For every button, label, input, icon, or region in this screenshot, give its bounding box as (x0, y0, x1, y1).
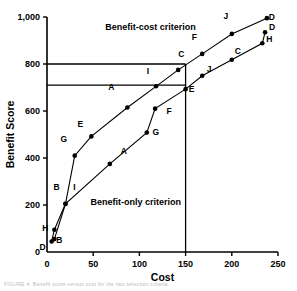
x-tick-label-50: 50 (88, 259, 98, 269)
figure-caption-fragment: FIGURE 4. Benefit score versus cost for … (4, 281, 204, 289)
data-point-benefit-only-F-4 (153, 106, 158, 111)
data-point-benefit-cost-F-8 (200, 52, 205, 57)
data-point-benefit-cost-A-5 (125, 105, 130, 110)
point-label-benefit-only-A-2: A (121, 146, 127, 156)
y-tick-label-400: 400 (25, 153, 40, 163)
point-label-benefit-only-I-1: I (73, 182, 75, 192)
data-point-benefit-only-J-6 (200, 73, 205, 78)
point-label-benefit-only-J-6: J (207, 64, 212, 74)
point-label-benefit-cost-J-9: J (223, 11, 228, 21)
point-label-benefit-cost-H-1: H (42, 223, 48, 233)
x-tick-label-100: 100 (132, 259, 147, 269)
data-point-benefit-only-G-3 (144, 130, 149, 135)
data-point-benefit-only-D-9 (263, 30, 268, 35)
data-point-benefit-cost-H-1 (52, 227, 57, 232)
data-point-benefit-cost-J-9 (230, 32, 235, 37)
x-tick-label-150: 150 (178, 259, 193, 269)
data-point-benefit-only-C-7 (230, 57, 235, 62)
point-label-benefit-cost-B-2: B (53, 182, 59, 192)
point-label-benefit-only-C-7: C (235, 46, 241, 56)
point-label-benefit-cost-D-0: D (40, 242, 46, 252)
data-point-benefit-only-E-5 (183, 87, 188, 92)
point-label-benefit-only-G-3: G (152, 127, 159, 137)
x-tick-label-200: 200 (224, 259, 239, 269)
y-tick-label-600: 600 (25, 106, 40, 116)
data-point-benefit-cost-I-6 (154, 84, 159, 89)
series-line-benefit-only (54, 32, 265, 239)
y-axis-title: Benefit Score (4, 100, 16, 168)
point-label-benefit-cost-D-10: D (269, 12, 275, 22)
data-point-benefit-cost-E-4 (89, 134, 94, 139)
data-point-benefit-cost-C-7 (176, 68, 181, 73)
point-label-benefit-only-F-4: F (167, 106, 172, 116)
benefit-cost-chart: 02004006008001,000050100150200250CostBen… (0, 0, 297, 291)
point-label-benefit-cost-A-5: A (108, 82, 114, 92)
y-tick-label-200: 200 (25, 200, 40, 210)
data-point-benefit-cost-G-3 (72, 153, 77, 158)
data-point-benefit-only-I-1 (63, 202, 68, 207)
point-label-benefit-only-E-5: E (189, 84, 195, 94)
y-tick-label-1,000: 1,000 (17, 12, 40, 22)
point-label-benefit-only-D-9: D (269, 22, 275, 32)
point-label-benefit-only-H-8: H (266, 34, 272, 44)
point-label-benefit-cost-G-3: G (60, 134, 67, 144)
y-tick-label-800: 800 (25, 59, 40, 69)
point-label-benefit-only-B-0: B (56, 235, 62, 245)
figure-container: 02004006008001,000050100150200250CostBen… (0, 0, 297, 291)
point-label-benefit-cost-I-6: I (147, 66, 149, 76)
point-label-benefit-cost-F-8: F (192, 32, 197, 42)
x-tick-label-0: 0 (44, 259, 49, 269)
x-tick-label-250: 250 (270, 259, 285, 269)
data-point-benefit-only-H-8 (260, 41, 265, 46)
benefit-only-label: Benefit-only criterion (90, 197, 181, 207)
point-label-benefit-cost-E-4: E (78, 119, 84, 129)
benefit-cost-label: Benefit-cost criterion (105, 22, 196, 32)
data-point-benefit-only-A-2 (108, 162, 113, 167)
point-label-benefit-cost-C-7: C (178, 49, 184, 59)
